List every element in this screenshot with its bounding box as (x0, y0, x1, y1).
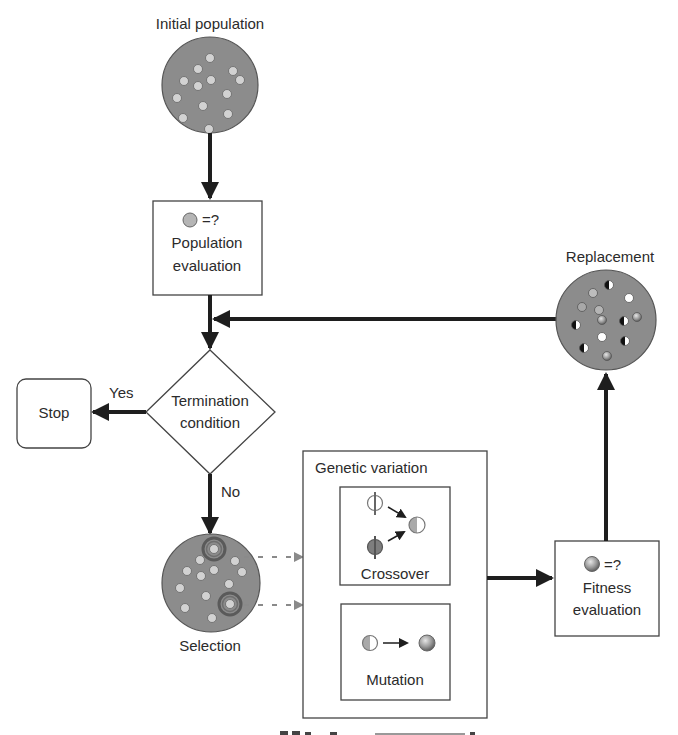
stop-label: Stop (39, 404, 70, 422)
selection-population-circle (162, 534, 260, 632)
selection-label: Selection (179, 637, 241, 655)
flowchart-canvas (0, 0, 678, 735)
termination-label-2: condition (180, 414, 240, 432)
individual-icon (183, 213, 197, 227)
fitness-individual-icon (585, 557, 600, 572)
no-edge-label: No (221, 483, 240, 501)
mutation-label: Mutation (366, 671, 424, 689)
genetic-variation-label: Genetic variation (315, 459, 428, 477)
initial-population-label: Initial population (156, 15, 264, 33)
caption-truncated (280, 731, 475, 735)
replacement-label: Replacement (566, 248, 654, 266)
fitness-evaluation-symbol: =? (604, 556, 621, 574)
crossover-offspring-icon (409, 517, 425, 533)
termination-label-1: Termination (171, 392, 249, 410)
initial-population-circle (162, 37, 258, 134)
mutation-output-icon (419, 635, 435, 651)
population-evaluation-label-1: Population (172, 234, 243, 252)
fitness-evaluation-label-2: evaluation (573, 601, 641, 619)
termination-diamond (146, 350, 275, 474)
fitness-evaluation-label-1: Fitness (583, 579, 631, 597)
mutation-input-icon (363, 636, 378, 651)
population-evaluation-symbol: =? (202, 211, 219, 229)
crossover-label: Crossover (361, 565, 429, 583)
replacement-population-circle (556, 270, 656, 370)
yes-edge-label: Yes (109, 384, 133, 402)
population-evaluation-label-2: evaluation (173, 257, 241, 275)
